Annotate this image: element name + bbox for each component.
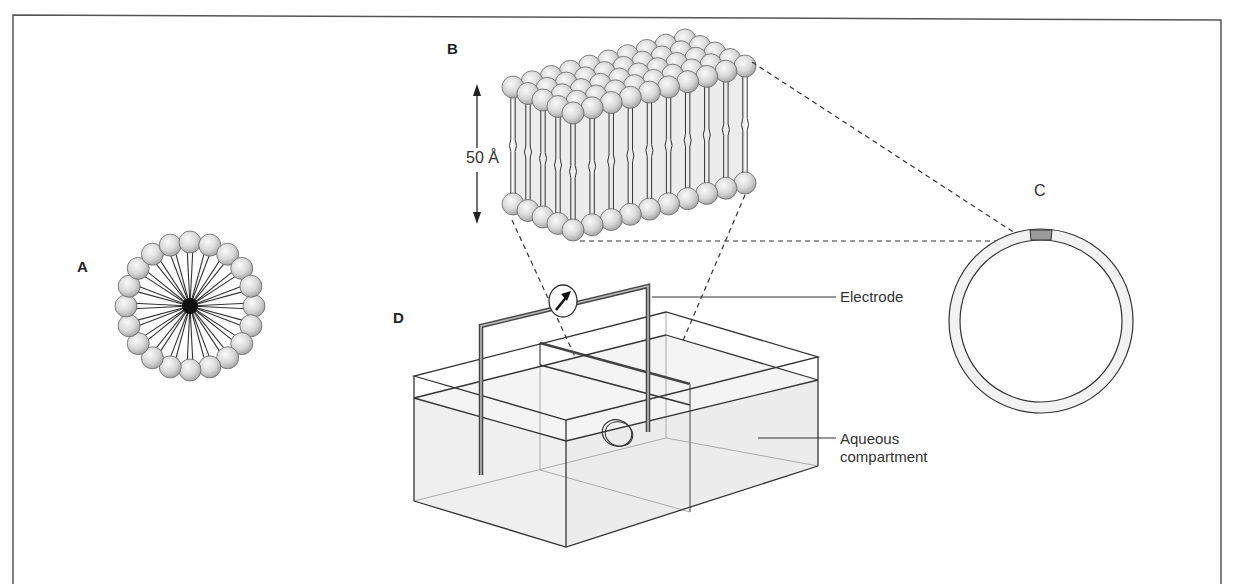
vesicle-ring	[949, 229, 1133, 413]
micelle-diagram	[115, 231, 265, 381]
bilayer-patch	[1030, 230, 1052, 240]
bilayer-diagram	[502, 29, 756, 241]
electrode-label: Electrode	[840, 288, 903, 306]
aqueous-label-line2: compartment	[840, 448, 928, 466]
panel-label-c: C	[1034, 182, 1046, 200]
thickness-label: 50 Å	[466, 149, 499, 167]
aqueous-label-line1: Aqueous	[840, 430, 899, 448]
bilayer-chamber	[414, 285, 836, 547]
panel-label-a: A	[77, 258, 88, 275]
panel-label-d: D	[393, 309, 404, 326]
figure-canvas	[0, 0, 1238, 584]
ammeter-icon	[549, 285, 577, 317]
panel-label-b: B	[447, 40, 458, 57]
